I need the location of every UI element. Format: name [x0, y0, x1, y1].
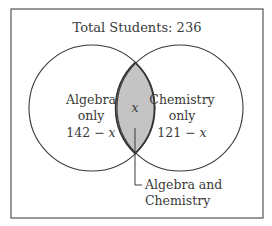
algebra-label: Algebra: [65, 92, 116, 107]
diagram-title: Total Students: 236: [73, 20, 202, 35]
chemistry-label: Chemistry: [149, 92, 215, 107]
chemistry-only-label: only: [169, 108, 197, 123]
algebra-only-label: only: [78, 108, 106, 123]
chemistry-only-value: 121 − x: [157, 125, 206, 140]
intersection-callout-line2: Chemistry: [145, 193, 211, 208]
algebra-only-value: 142 − x: [66, 125, 115, 140]
venn-diagram: Total Students: 236 Algebra only 142 − x…: [0, 0, 272, 226]
intersection-callout-line1: Algebra and: [144, 177, 222, 192]
intersection-value: x: [131, 100, 138, 115]
